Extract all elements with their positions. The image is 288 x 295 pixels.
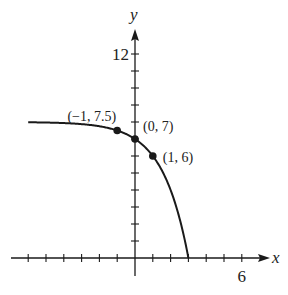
- y-axis-label: y: [128, 5, 138, 24]
- data-point-marker: [149, 152, 157, 160]
- data-point-marker: [131, 135, 139, 143]
- data-point-label: (1, 6): [163, 150, 194, 166]
- x-axis-label: x: [271, 248, 280, 267]
- data-point-marker: [113, 127, 121, 135]
- graph: 612 (−1, 7.5)(0, 7)(1, 6) x y: [0, 0, 288, 295]
- axes: [11, 29, 270, 276]
- x-tick-label: 6: [238, 267, 247, 286]
- function-curve: [28, 122, 188, 258]
- y-tick-label: 12: [112, 45, 129, 64]
- data-point-label: (−1, 7.5): [67, 109, 116, 125]
- ticks: 612: [28, 45, 246, 286]
- data-point-label: (0, 7): [143, 119, 174, 135]
